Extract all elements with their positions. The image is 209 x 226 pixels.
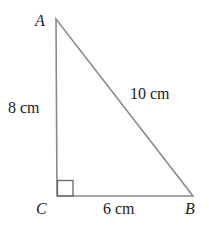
triangle-diagram: A C B 8 cm 6 cm 10 cm [0,0,209,226]
right-angle-marker [58,181,74,197]
side-label-ac: 8 cm [8,100,40,116]
vertex-label-c: C [36,201,47,217]
vertex-label-a: A [35,13,45,29]
side-label-ab: 10 cm [130,86,170,102]
vertex-label-b: B [185,201,195,217]
triangle-abc [56,19,193,196]
side-label-cb: 6 cm [103,201,135,217]
